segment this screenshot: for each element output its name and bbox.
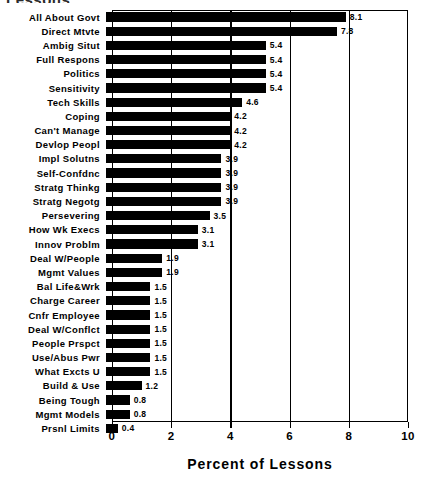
bar-row: Sensitivity5.4: [0, 81, 426, 95]
bar-row: Prsnl Limits0.4: [0, 421, 426, 435]
bar-value-label: 4.2: [234, 126, 247, 136]
gridline: [349, 10, 350, 422]
category-label: Use/Abus Pwr: [0, 352, 106, 363]
bar-value-label: 1.5: [154, 296, 167, 306]
bar: [106, 367, 150, 376]
category-label: Mgmt Values: [0, 267, 106, 278]
bar-value-label: 1.5: [154, 310, 167, 320]
bar: [106, 239, 198, 248]
category-label: Stratg Thinkg: [0, 182, 106, 193]
bar-value-label: 3.5: [214, 211, 227, 221]
bar: [106, 339, 150, 348]
category-label: Bal Life&Wrk: [0, 281, 106, 292]
bar: [106, 296, 150, 305]
bar: [106, 211, 210, 220]
x-axis-title: Percent of Lessons: [112, 456, 408, 472]
category-label: Build & Use: [0, 380, 106, 391]
bar: [106, 410, 130, 419]
category-label: Mgmt Models: [0, 409, 106, 420]
x-tick-label: 4: [227, 430, 234, 442]
bar: [106, 197, 221, 206]
bar-track: 8.1: [106, 10, 426, 24]
bar-row: Stratg Thinkg3.9: [0, 180, 426, 194]
bar-row: Being Tough0.8: [0, 393, 426, 407]
bar-row: What Excts U1.5: [0, 365, 426, 379]
bar-track: 3.9: [106, 166, 426, 180]
bar-row: Tech Skills4.6: [0, 95, 426, 109]
category-label: Sensitivity: [0, 83, 106, 94]
category-label: People Prspct: [0, 338, 106, 349]
category-label: Deal W/People: [0, 253, 106, 264]
bar-row: Politics5.4: [0, 67, 426, 81]
bar-value-label: 8.1: [350, 12, 363, 22]
bar-value-label: 4.2: [234, 111, 247, 121]
tick-mark: [408, 422, 409, 428]
bar-track: 1.9: [106, 251, 426, 265]
category-label: Charge Career: [0, 295, 106, 306]
x-tick-label: 0: [109, 430, 116, 442]
bar-value-label: 3.1: [202, 239, 215, 249]
category-label: Being Tough: [0, 395, 106, 406]
bar-track: 1.5: [106, 308, 426, 322]
bar: [106, 69, 266, 78]
category-label: Can't Manage: [0, 125, 106, 136]
bar: [106, 55, 266, 64]
bar-row: Bal Life&Wrk1.5: [0, 280, 426, 294]
bar-track: 1.5: [106, 365, 426, 379]
bar-row: Mgmt Models0.8: [0, 407, 426, 421]
bar: [106, 325, 150, 334]
category-label: Prsnl Limits: [0, 423, 106, 434]
bar-value-label: 3.9: [225, 182, 238, 192]
bar-track: 5.4: [106, 38, 426, 52]
bar: [106, 395, 130, 404]
bar: [106, 381, 142, 390]
bar-row: People Prspct1.5: [0, 336, 426, 350]
bar-row: Self-Confdnc3.9: [0, 166, 426, 180]
bar-row: Direct Mtvte7.8: [0, 24, 426, 38]
category-label: Tech Skills: [0, 97, 106, 108]
bar: [106, 168, 221, 177]
tick-mark: [230, 422, 231, 428]
bar-value-label: 1.5: [154, 324, 167, 334]
bar-row: Full Respons5.4: [0, 53, 426, 67]
bar-value-label: 1.2: [146, 381, 159, 391]
bar-track: 4.2: [106, 138, 426, 152]
bar-track: 0.8: [106, 393, 426, 407]
bar-track: 4.6: [106, 95, 426, 109]
bar: [106, 254, 162, 263]
category-label: Impl Solutns: [0, 153, 106, 164]
bar-track: 1.5: [106, 336, 426, 350]
bar-value-label: 5.4: [270, 83, 283, 93]
bar-value-label: 1.9: [166, 267, 179, 277]
bar-row: Can't Manage4.2: [0, 124, 426, 138]
bar: [106, 310, 150, 319]
bar: [106, 282, 150, 291]
bar-value-label: 0.8: [134, 395, 147, 405]
bar-row: Persevering3.5: [0, 209, 426, 223]
bar-track: 3.9: [106, 194, 426, 208]
category-label: Full Respons: [0, 54, 106, 65]
category-label: Politics: [0, 68, 106, 79]
bar-track: 0.4: [106, 421, 426, 435]
bar-track: 3.1: [106, 223, 426, 237]
x-tick-label: 8: [345, 430, 352, 442]
bar: [106, 98, 242, 107]
bar-track: 1.5: [106, 351, 426, 365]
bar: [106, 268, 162, 277]
bar-row: Devlop Peopl4.2: [0, 138, 426, 152]
x-tick-label: 6: [286, 430, 293, 442]
category-label: Stratg Negotg: [0, 196, 106, 207]
bar-track: 3.9: [106, 180, 426, 194]
bar-value-label: 5.4: [270, 40, 283, 50]
bar-row: Innov Problm3.1: [0, 237, 426, 251]
bar: [106, 12, 346, 21]
category-label: Deal W/Conflct: [0, 324, 106, 335]
gridline: [290, 10, 291, 422]
bar-track: 1.2: [106, 379, 426, 393]
bar-value-label: 3.9: [225, 168, 238, 178]
bar-row: Mgmt Values1.9: [0, 265, 426, 279]
bar-row: Build & Use1.2: [0, 379, 426, 393]
chart-title: Lessons: [6, 0, 70, 3]
bar-track: 5.4: [106, 53, 426, 67]
category-label: Innov Problm: [0, 239, 106, 250]
